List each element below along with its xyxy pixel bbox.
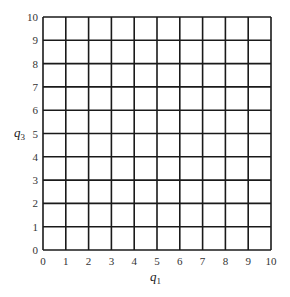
x-tick-label: 3 — [109, 255, 115, 267]
x-tick-label: 8 — [223, 255, 229, 267]
y-tick-label: 0 — [33, 244, 39, 256]
x-tick-label: 5 — [154, 255, 160, 267]
x-tick-label: 2 — [86, 255, 92, 267]
x-axis-label: q1 — [150, 269, 161, 286]
y-tick-label: 8 — [33, 58, 39, 70]
x-tick-label: 7 — [200, 255, 206, 267]
y-tick-label: 5 — [33, 128, 39, 140]
x-tick-label: 10 — [266, 255, 278, 267]
x-tick-label: 0 — [40, 255, 46, 267]
x-tick-label: 4 — [131, 255, 137, 267]
x-tick-label: 6 — [177, 255, 183, 267]
y-axis-ticks: 012345678910 — [27, 11, 39, 256]
x-tick-label: 9 — [245, 255, 251, 267]
y-tick-label: 3 — [33, 174, 39, 186]
y-tick-label: 6 — [33, 104, 39, 116]
grid-lines — [43, 17, 271, 250]
x-axis-ticks: 012345678910 — [40, 255, 277, 267]
y-tick-label: 2 — [33, 197, 39, 209]
y-tick-label: 4 — [33, 151, 39, 163]
y-axis-label: q3 — [14, 125, 26, 142]
y-tick-label: 1 — [33, 221, 39, 233]
grid-chart: 012345678910 012345678910 q3 q1 — [0, 0, 290, 297]
y-tick-label: 7 — [33, 81, 39, 93]
y-tick-label: 9 — [33, 34, 39, 46]
y-tick-label: 10 — [27, 11, 39, 23]
x-tick-label: 1 — [63, 255, 69, 267]
